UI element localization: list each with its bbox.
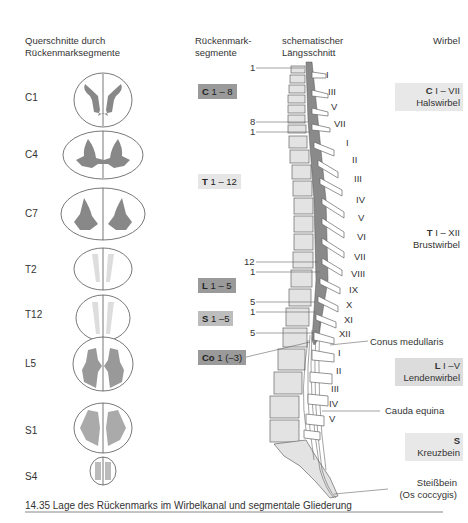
vertebra-name: Lendenwirbel	[398, 372, 460, 384]
vertebra-box-thoracic: T I – XII Brustwirbel	[395, 225, 463, 253]
vertebra-numeral: V	[358, 212, 364, 223]
segment-range: 1 – 8	[212, 86, 233, 97]
vertebra-box-range-line: T I – XII	[398, 227, 460, 239]
vertebra-numeral: X	[346, 299, 352, 310]
vertebra-letter: L	[435, 360, 441, 371]
vertebra-name: Kreuzbein	[408, 447, 460, 459]
cross-section-t12	[76, 295, 130, 341]
vertebra-numeral: IX	[349, 284, 358, 295]
vertebra-numeral: V	[331, 101, 337, 112]
annotation-cauda-equina: Cauda equina	[385, 405, 444, 417]
vertebra-numeral: IV	[356, 194, 365, 205]
vertebra-numeral: III	[354, 173, 362, 184]
cross-section-c1	[74, 73, 132, 127]
cross-section-drawings	[0, 0, 468, 523]
segment-box-lumbar: L 1 – 5	[198, 278, 236, 293]
cross-section-c4	[63, 131, 143, 179]
spine-longitudinal-section	[242, 62, 388, 498]
segment-range: 1 (–3)	[217, 352, 242, 363]
vertebra-box-sacrum: S Kreuzbein	[405, 433, 463, 461]
vertebra-numeral: II	[352, 154, 357, 165]
vertebra-box-range-line: C I – VII	[398, 85, 460, 97]
vertebra-numeral: VII	[334, 118, 346, 129]
segment-box-sacral: S 1 –5	[198, 311, 233, 326]
segment-range: 1 – 5	[210, 280, 231, 291]
segment-range: 1 – 12	[210, 176, 236, 187]
annotation-conus-medullaris: Conus medullaris	[370, 336, 443, 348]
vertebra-range: I –V	[443, 360, 460, 371]
cross-section-s1	[74, 403, 132, 453]
segment-box-thoracic: T 1 – 12	[198, 174, 241, 189]
annotation-line: (Os coccygis)	[380, 489, 457, 501]
vertebra-numeral: I	[326, 69, 329, 80]
vertebra-box-cervical: C I – VII Halswirbel	[395, 83, 463, 111]
vertebra-range: I – VII	[435, 85, 460, 96]
vertebra-range: I – XII	[435, 227, 460, 238]
vertebra-box-range-line: S	[408, 435, 460, 447]
segment-letter: S	[202, 313, 208, 324]
vertebra-numeral: II	[336, 365, 341, 376]
segment-number: 1	[250, 126, 255, 137]
vertebra-numeral: VIII	[351, 268, 365, 279]
vertebra-name: Halswirbel	[398, 97, 460, 109]
annotation-line: Steißbein	[380, 477, 457, 489]
segment-number: 1	[250, 62, 255, 73]
vertebra-box-range-line: L I –V	[398, 360, 460, 372]
vertebra-numeral: XII	[339, 328, 351, 339]
segment-letter: C	[202, 86, 209, 97]
vertebra-name: Brustwirbel	[398, 239, 460, 251]
vertebra-numeral: XI	[344, 314, 353, 325]
segment-letter: L	[202, 280, 208, 291]
vertebra-box-lumbar: L I –V Lendenwirbel	[395, 358, 463, 386]
vertebra-letter: C	[426, 85, 433, 96]
figure-caption: 14.35 Lage des Rückenmarks im Wirbelkana…	[25, 500, 352, 511]
cross-section-l5	[73, 337, 133, 391]
segment-letter: Co	[202, 352, 215, 363]
segment-number: 5	[250, 327, 255, 338]
segment-box-cervical: C 1 – 8	[198, 84, 237, 99]
vertebra-letter: T	[427, 227, 433, 238]
cross-section-s4	[90, 457, 116, 485]
cross-section-c7	[61, 188, 145, 240]
vertebra-numeral: I	[338, 347, 341, 358]
vertebra-numeral: VI	[357, 231, 366, 242]
segment-number: 1	[250, 266, 255, 277]
vertebra-numeral: V	[329, 413, 335, 424]
vertebra-numeral: I	[346, 137, 349, 148]
segment-box-coccygeal: Co 1 (–3)	[198, 350, 246, 365]
segment-number: 1	[250, 306, 255, 317]
vertebra-numeral: III	[328, 86, 336, 97]
annotation-coccyx: Steißbein (Os coccygis)	[380, 477, 457, 501]
vertebra-numeral: IV	[329, 398, 338, 409]
segment-range: 1 –5	[211, 313, 230, 324]
segment-letter: T	[202, 176, 208, 187]
vertebra-numeral: III	[331, 383, 339, 394]
vertebra-letter: S	[454, 435, 460, 446]
vertebra-numeral: VII	[354, 251, 366, 262]
cross-section-t2	[74, 248, 132, 290]
